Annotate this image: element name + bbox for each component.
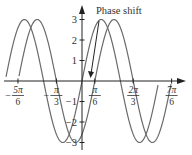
x-tick-label: 5π6− bbox=[5, 85, 24, 107]
svg-text:5π: 5π bbox=[13, 85, 23, 95]
x-axis-arrow-icon bbox=[177, 78, 186, 84]
x-ticks: 5π6−π3−π62π37π6 bbox=[5, 79, 177, 108]
svg-text:−: − bbox=[5, 90, 11, 101]
svg-text:−: − bbox=[44, 90, 50, 101]
svg-text:π: π bbox=[92, 85, 97, 95]
y-tick-label: −2 bbox=[66, 117, 77, 128]
svg-text:7π: 7π bbox=[167, 85, 177, 95]
svg-text:6: 6 bbox=[169, 97, 174, 107]
svg-text:6: 6 bbox=[16, 97, 21, 107]
svg-text:3: 3 bbox=[54, 97, 59, 107]
svg-text:2π: 2π bbox=[128, 85, 138, 95]
y-tick-label: −1 bbox=[66, 96, 77, 107]
y-tick-label: −3 bbox=[66, 137, 77, 148]
y-tick-label: 3 bbox=[72, 14, 77, 25]
phase-shift-chart: 321−1−2−3 5π6−π3−π62π37π6 Phase shift bbox=[0, 0, 192, 155]
y-tick-label: 1 bbox=[72, 55, 77, 66]
svg-text:3: 3 bbox=[131, 97, 136, 107]
y-axis-arrow-icon bbox=[79, 5, 85, 14]
y-tick-label: 2 bbox=[72, 35, 77, 46]
phase-shift-annotation: Phase shift bbox=[96, 5, 142, 16]
svg-text:6: 6 bbox=[92, 97, 97, 107]
arrow-down-icon bbox=[88, 71, 94, 78]
svg-text:π: π bbox=[54, 85, 59, 95]
